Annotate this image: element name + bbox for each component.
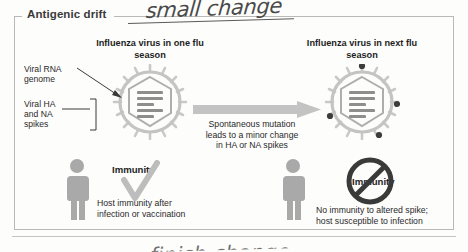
- status-badge-immunity-right: Immunity: [352, 176, 395, 187]
- person-icon-immune: [62, 158, 92, 222]
- caption-spontaneous-mutation: Spontaneous mutation leads to a minor ch…: [186, 119, 318, 151]
- mutation-arrow-icon: [193, 101, 321, 118]
- influenza-virus-icon-left: [112, 64, 188, 140]
- label-viral-rna-genome: Viral RNA genome: [24, 64, 62, 84]
- right-virus-heading: Influenza virus in next flu season: [297, 38, 427, 61]
- influenza-virus-icon-right: [324, 64, 400, 140]
- page-title: Antigenic drift: [27, 8, 106, 20]
- leader-line-rna: [76, 66, 122, 98]
- status-badge-immunity-left: Immunity: [112, 164, 155, 175]
- caption-host-immunity: Host immunity after infection or vaccina…: [97, 198, 185, 219]
- figure-canvas: Antigenic drift small change finish chan…: [0, 0, 468, 252]
- label-viral-ha-na-spikes: Viral HA and NA spikes: [24, 99, 55, 130]
- bottom-divider: [12, 236, 456, 237]
- left-virus-heading: Influenza virus in one flu season: [85, 38, 215, 61]
- caption-no-immunity: No immunity to altered spike; host susce…: [316, 205, 428, 226]
- person-icon-susceptible: [278, 158, 308, 222]
- handwritten-annotation-bottom: finish change: [150, 239, 291, 252]
- leader-bracket-spikes: [62, 98, 112, 132]
